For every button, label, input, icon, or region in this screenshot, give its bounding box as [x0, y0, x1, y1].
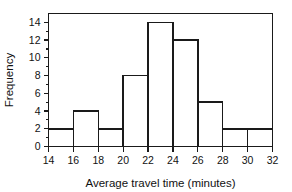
y-tick-label: 12 — [29, 34, 41, 46]
x-tick-label: 30 — [242, 154, 254, 166]
y-tick-label: 4 — [35, 105, 41, 117]
y-axis-title: Frequency — [3, 53, 15, 108]
y-tick-label: 14 — [29, 16, 41, 28]
x-tick-label: 18 — [92, 154, 104, 166]
y-tick-label: 6 — [35, 87, 41, 99]
y-tick-label: 8 — [35, 69, 41, 81]
x-tick-label: 32 — [267, 154, 279, 166]
x-tick-label: 28 — [217, 154, 229, 166]
histogram-chart: 02468101214 14161820222426283032 Average… — [0, 0, 292, 192]
chart-canvas: 02468101214 14161820222426283032 Average… — [0, 0, 292, 192]
y-tick-label: 10 — [29, 51, 41, 63]
x-tick-label: 26 — [192, 154, 204, 166]
x-axis-title: Average travel time (minutes) — [86, 177, 236, 189]
x-tick-label: 20 — [117, 154, 129, 166]
y-tick-label: 0 — [35, 140, 41, 152]
x-tick-label: 22 — [142, 154, 154, 166]
x-tick-label: 14 — [43, 154, 55, 166]
x-tick-label: 24 — [167, 154, 179, 166]
x-tick-label: 16 — [68, 154, 80, 166]
y-tick-label: 2 — [35, 122, 41, 134]
